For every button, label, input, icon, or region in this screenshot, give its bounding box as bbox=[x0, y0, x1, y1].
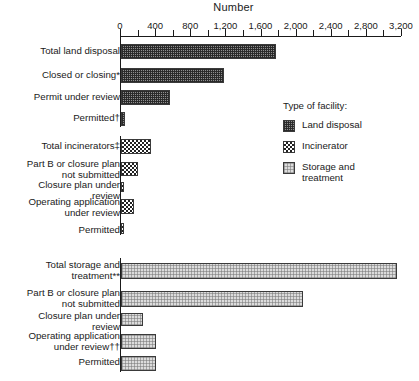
legend-swatch-incinerator-icon bbox=[283, 141, 295, 153]
x-axis-tick-label: 1,200 bbox=[205, 20, 245, 31]
y-axis-baseline bbox=[120, 136, 121, 235]
category-label: Permitted bbox=[0, 357, 124, 368]
x-axis-tick-label: 0 bbox=[100, 20, 140, 31]
bar bbox=[121, 68, 224, 83]
category-label: Permitted† bbox=[0, 113, 124, 124]
legend-swatch-storage-treatment-icon bbox=[283, 162, 295, 174]
category-label: Closed or closing* bbox=[0, 70, 124, 81]
legend-item-land-disposal: Land disposal bbox=[283, 120, 362, 132]
axis-title-text: Number bbox=[213, 1, 253, 13]
x-axis-tick-label: 400 bbox=[135, 20, 175, 31]
x-axis-tick-label: 3,200 bbox=[381, 20, 419, 31]
bar bbox=[121, 263, 397, 279]
legend-item-incinerator: Incinerator bbox=[283, 141, 362, 153]
bar bbox=[121, 356, 156, 371]
category-label: Total land disposal bbox=[0, 46, 124, 57]
legend-label-land-disposal: Land disposal bbox=[302, 120, 362, 131]
x-axis-line bbox=[120, 36, 401, 37]
legend: Type of facility: Land disposal Incinera… bbox=[283, 100, 362, 192]
category-label: Part B or closure plan not submitted bbox=[0, 288, 124, 309]
legend-label-storage-treatment: Storage and treatment bbox=[302, 162, 355, 183]
category-label: Total incinerators‡ bbox=[0, 141, 124, 152]
category-label: Operating application under review†† bbox=[0, 331, 124, 352]
category-label: Closure plan under review bbox=[0, 311, 124, 332]
legend-swatch-land-disposal-icon bbox=[283, 120, 295, 132]
legend-title: Type of facility: bbox=[283, 100, 362, 111]
x-axis-tick-label: 800 bbox=[170, 20, 210, 31]
axis-title: Number bbox=[0, 1, 419, 13]
category-label: Part B or closure plan not submitted bbox=[0, 159, 124, 180]
category-label: Operating application under review bbox=[0, 197, 124, 218]
category-label: Permitted bbox=[0, 225, 124, 236]
category-label: Total storage and treatment** bbox=[0, 260, 124, 281]
bar bbox=[121, 334, 156, 349]
bar bbox=[121, 139, 151, 154]
bar bbox=[121, 90, 170, 105]
legend-label-incinerator: Incinerator bbox=[302, 141, 348, 152]
legend-item-storage-treatment: Storage and treatment bbox=[283, 162, 362, 183]
y-axis-baseline bbox=[120, 36, 121, 127]
x-axis-tick-label: 1,600 bbox=[241, 20, 281, 31]
x-axis-tick-label: 2,000 bbox=[276, 20, 316, 31]
y-axis-baseline bbox=[120, 258, 121, 372]
x-axis-tick-label: 2,400 bbox=[311, 20, 351, 31]
bar-chart: Number 04008001,2001,6002,0002,4002,8003… bbox=[0, 0, 419, 381]
x-axis-tick-label: 2,800 bbox=[346, 20, 386, 31]
bar bbox=[121, 291, 303, 307]
bar bbox=[121, 313, 143, 326]
category-label: Permit under review bbox=[0, 92, 124, 103]
bar bbox=[121, 44, 276, 59]
